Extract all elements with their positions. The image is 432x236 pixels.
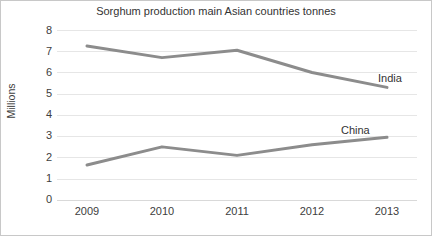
series-label-china: China [341, 124, 370, 136]
y-tick-label: 7 [22, 46, 52, 57]
x-axis-line [57, 200, 417, 201]
series-label-india: India [378, 72, 402, 84]
x-tick-label: 2012 [282, 205, 342, 217]
x-tick-label: 2010 [132, 205, 192, 217]
y-tick-label: 3 [22, 130, 52, 141]
y-axis-title: Millions [5, 71, 17, 131]
y-axis-tick-labels: 8 7 6 5 4 3 2 1 0 [18, 30, 52, 200]
series-line-india [87, 46, 387, 87]
y-tick-label: 6 [22, 67, 52, 78]
chart-title: Sorghum production main Asian countries … [0, 5, 432, 17]
x-tick-label: 2009 [57, 205, 117, 217]
x-axis-tick-labels: 2009 2010 2011 2012 2013 [57, 205, 417, 225]
series-lines [57, 30, 417, 200]
series-line-china [87, 137, 387, 165]
y-tick-label: 5 [22, 88, 52, 99]
x-tick-label: 2011 [207, 205, 267, 217]
y-tick-label: 0 [22, 194, 52, 205]
y-tick-label: 4 [22, 109, 52, 120]
y-tick-label: 1 [22, 173, 52, 184]
plot-area [57, 30, 417, 200]
y-tick-label: 2 [22, 152, 52, 163]
chart-container: Sorghum production main Asian countries … [0, 0, 432, 236]
x-tick-label: 2013 [357, 205, 417, 217]
y-tick-label: 8 [22, 25, 52, 36]
